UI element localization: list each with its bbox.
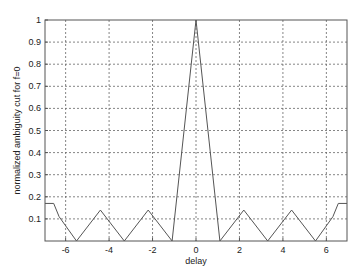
x-axis-label: delay xyxy=(185,256,207,266)
x-tick-label: 2 xyxy=(237,245,242,255)
y-axis-label: normalized ambiguity cut for f=0 xyxy=(12,67,22,195)
y-tick-label: 0.2 xyxy=(28,192,41,202)
x-tick-label: -4 xyxy=(105,245,113,255)
x-tick-label: 4 xyxy=(280,245,285,255)
x-tick-label: 0 xyxy=(193,245,198,255)
y-tick-label: 0.1 xyxy=(28,214,41,224)
y-tick-label: 0.5 xyxy=(28,126,41,136)
x-tick-label: 6 xyxy=(324,245,329,255)
y-tick-label: 0.7 xyxy=(28,81,41,91)
x-tick-label: -2 xyxy=(149,245,157,255)
y-tick-label: 0.8 xyxy=(28,59,41,69)
x-tick-label: -6 xyxy=(62,245,70,255)
y-tick-label: 0.6 xyxy=(28,103,41,113)
grid-lines xyxy=(45,20,347,241)
y-tick-label: 1 xyxy=(36,15,41,25)
ambiguity-chart: -6-4-20246 0.10.20.30.40.50.60.70.80.91 … xyxy=(0,0,364,279)
y-tick-label: 0.9 xyxy=(28,37,41,47)
y-tick-label: 0.4 xyxy=(28,148,41,158)
y-tick-label: 0.3 xyxy=(28,170,41,180)
